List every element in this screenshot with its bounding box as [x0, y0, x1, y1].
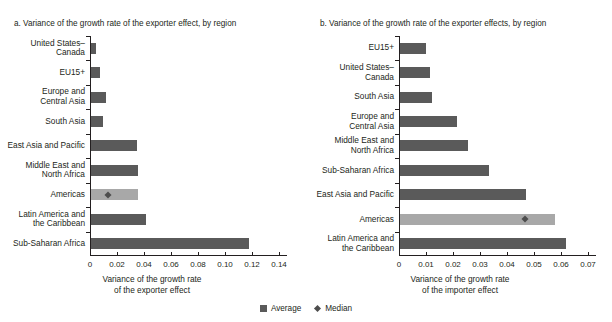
x-axis-tick-label: 0 — [88, 260, 92, 269]
x-axis-tick-label: 0.02 — [109, 260, 125, 269]
y-axis-tick — [86, 36, 90, 37]
bar-average — [400, 43, 426, 54]
y-axis-tick — [395, 134, 399, 135]
bar-category-label: Sub-Saharan Africa — [244, 166, 394, 176]
y-axis-tick — [86, 183, 90, 184]
bar-average — [400, 238, 566, 249]
legend-label-median: Median — [325, 304, 352, 313]
bar-category-label: Americas — [0, 190, 85, 200]
bar-category-label: Latin America and the Caribbean — [0, 210, 85, 229]
x-axis-tick — [225, 252, 226, 256]
panel-b-title: b. Variance of the growth rate of the ex… — [320, 19, 606, 29]
figure-root: a. Variance of the growth rate of the ex… — [0, 0, 612, 322]
bar-average — [400, 165, 489, 176]
bar-average — [400, 140, 468, 151]
bar-category-label: United States– Canada — [0, 39, 85, 58]
x-axis-tick — [561, 252, 562, 256]
x-axis-tick — [117, 252, 118, 256]
x-axis-tick-label: 0.03 — [472, 260, 488, 269]
x-axis-tick-label: 0.01 — [418, 260, 434, 269]
bar-category-label: Sub-Saharan Africa — [0, 239, 85, 249]
x-axis-tick-label: 0.12 — [244, 260, 260, 269]
y-axis-tick — [395, 36, 399, 37]
bar-average — [91, 238, 249, 249]
bar-category-label: South Asia — [244, 92, 394, 102]
x-axis-tick-label: 0.10 — [217, 260, 233, 269]
bar-row: East Asia and Pacific — [399, 183, 588, 207]
panel-b-x-axis-title: Variance of the growth rate of the impor… — [330, 274, 590, 295]
bar-average — [91, 165, 138, 176]
bar-highlight — [91, 189, 138, 200]
x-axis-tick-label: 0.06 — [163, 260, 179, 269]
average-swatch-icon — [260, 305, 267, 312]
y-axis-tick — [395, 183, 399, 184]
x-axis-tick — [399, 252, 400, 256]
y-axis-tick — [395, 232, 399, 233]
y-axis-tick — [86, 134, 90, 135]
legend-item-average: Average — [260, 304, 301, 313]
bar-category-label: South Asia — [0, 117, 85, 127]
bar-row: United States– Canada — [399, 60, 588, 84]
y-axis-tick — [86, 109, 90, 110]
bar-category-label: Middle East and North Africa — [244, 136, 394, 155]
bar-category-label: East Asia and Pacific — [0, 141, 85, 151]
x-axis-tick — [171, 252, 172, 256]
median-diamond-icon — [314, 305, 321, 312]
x-axis-tick — [507, 252, 508, 256]
bar-average — [91, 43, 96, 54]
x-axis-tick — [453, 252, 454, 256]
bar-average — [91, 214, 146, 225]
x-axis-tick-label: 0.02 — [445, 260, 461, 269]
bar-category-label: EU15+ — [244, 43, 394, 53]
y-axis-tick — [395, 85, 399, 86]
bar-average — [400, 116, 457, 127]
bar-row: South Asia — [399, 85, 588, 109]
bar-category-label: Europe and Central Asia — [0, 87, 85, 106]
x-axis-tick-label: 0 — [397, 260, 401, 269]
x-axis-tick-label: 0.04 — [499, 260, 515, 269]
y-axis-tick — [86, 158, 90, 159]
bar-category-label: EU15+ — [0, 68, 85, 78]
x-axis-tick-label: 0.04 — [136, 260, 152, 269]
bar-average — [400, 92, 432, 103]
panel-a-title: a. Variance of the growth rate of the ex… — [14, 19, 300, 29]
panel-b-bars: EU15+United States– CanadaSouth AsiaEuro… — [399, 36, 588, 256]
x-axis-tick — [534, 252, 535, 256]
bar-average — [91, 140, 137, 151]
bar-category-label: United States– Canada — [244, 63, 394, 82]
bar-category-label: Latin America and the Caribbean — [244, 234, 394, 253]
panel-a-x-axis-title: Variance of the growth rate of the expor… — [22, 274, 282, 295]
y-axis-tick — [86, 207, 90, 208]
y-axis-tick — [86, 85, 90, 86]
y-axis-tick — [395, 109, 399, 110]
x-axis-tick-label: 0.05 — [526, 260, 542, 269]
chart-panel-b: b. Variance of the growth rate of the ex… — [306, 0, 612, 322]
bar-average — [400, 67, 430, 78]
y-axis-tick — [395, 158, 399, 159]
y-axis-tick — [395, 60, 399, 61]
bar-category-label: Middle East and North Africa — [0, 161, 85, 180]
x-axis-tick — [198, 252, 199, 256]
x-axis-tick-label: 0.14 — [271, 260, 287, 269]
bar-row: Americas — [399, 207, 588, 231]
x-axis-tick — [588, 252, 589, 256]
x-axis-tick — [90, 252, 91, 256]
bar-row: Europe and Central Asia — [399, 109, 588, 133]
y-axis-tick — [86, 232, 90, 233]
x-axis-tick — [426, 252, 427, 256]
legend-item-median: Median — [314, 304, 352, 313]
y-axis-tick — [86, 60, 90, 61]
bar-row: Middle East and North Africa — [399, 134, 588, 158]
bar-category-label: Americas — [244, 215, 394, 225]
legend-label-average: Average — [271, 304, 301, 313]
bar-average — [91, 116, 103, 127]
x-axis-tick-label: 0.06 — [553, 260, 569, 269]
y-axis-tick — [395, 207, 399, 208]
bar-category-label: Europe and Central Asia — [244, 112, 394, 131]
x-axis-tick — [480, 252, 481, 256]
bar-row: Latin America and the Caribbean — [399, 232, 588, 256]
bar-row: Sub-Saharan Africa — [399, 158, 588, 182]
x-axis-tick — [144, 252, 145, 256]
x-axis-tick-label: 0.07 — [580, 260, 596, 269]
panel-b-plot-area: EU15+United States– CanadaSouth AsiaEuro… — [399, 36, 588, 256]
